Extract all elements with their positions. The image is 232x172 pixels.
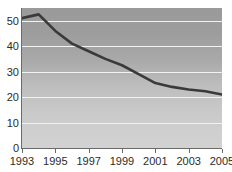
x-axis-tick-label: 1995	[38, 155, 72, 167]
x-axis-tick-label: 2005	[205, 155, 232, 167]
x-axis-tick-label: 1997	[72, 155, 106, 167]
x-axis-tick-mark	[122, 149, 123, 153]
x-axis-tick-label: 1993	[5, 155, 39, 167]
y-axis-tick-label: 0	[1, 143, 19, 154]
series-path	[22, 14, 222, 94]
x-axis-tick-label: 2003	[172, 155, 206, 167]
y-axis-line	[21, 8, 22, 149]
x-axis-tick-label: 2001	[138, 155, 172, 167]
x-axis-tick-mark	[89, 149, 90, 153]
y-axis-tick-label: 30	[1, 67, 19, 78]
y-axis-tick-label: 20	[1, 92, 19, 103]
x-axis-tick-mark	[189, 149, 190, 153]
y-axis-tick-label: 10	[1, 118, 19, 129]
data-series-line	[22, 8, 222, 148]
line-chart: 01020304050 1993199519971999200120032005	[0, 0, 232, 172]
y-axis-tick-label: 40	[1, 41, 19, 52]
y-axis-tick-labels: 01020304050	[0, 0, 19, 172]
x-axis-tick-mark	[22, 149, 23, 153]
plot-area	[22, 8, 222, 148]
x-axis-tick-mark	[222, 149, 223, 153]
y-axis-tick-label: 50	[1, 16, 19, 27]
x-axis-tick-mark	[55, 149, 56, 153]
x-axis-tick-label: 1999	[105, 155, 139, 167]
x-axis-tick-mark	[155, 149, 156, 153]
